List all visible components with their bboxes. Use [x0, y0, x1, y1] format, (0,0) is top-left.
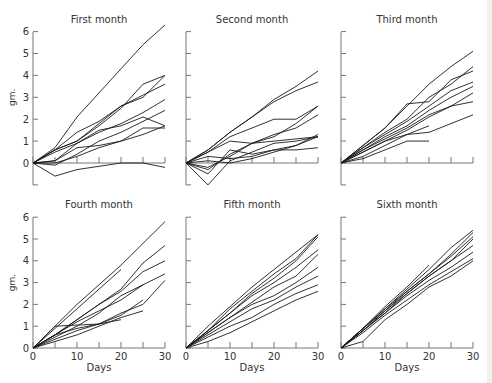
growth-line — [33, 110, 165, 165]
growth-line — [341, 261, 473, 348]
panel-title: Third month — [375, 14, 437, 25]
y-tick-label: 3 — [23, 92, 29, 103]
y-tick-label: 6 — [23, 212, 29, 223]
growth-line — [33, 75, 165, 163]
y-tick-label: 2 — [23, 299, 29, 310]
x-tick-label: 10 — [379, 351, 392, 362]
y-tick-label: 3 — [23, 277, 29, 288]
panel-title: First month — [71, 14, 128, 25]
growth-line — [186, 285, 318, 348]
y-tick-label: 1 — [23, 136, 29, 147]
growth-line — [33, 261, 165, 348]
y-tick-label: 0 — [23, 158, 29, 169]
x-tick-label: 0 — [183, 351, 189, 362]
x-axis-label: Days — [395, 362, 420, 373]
panel-title: Second month — [216, 14, 288, 25]
growth-curves-figure: First month0123456gm.Second monthThird m… — [0, 0, 492, 383]
y-tick-label: 0 — [23, 343, 29, 354]
growth-line — [341, 93, 473, 163]
growth-line — [33, 246, 165, 349]
x-tick-label: 30 — [312, 351, 325, 362]
y-tick-label: 2 — [23, 114, 29, 125]
panel-third-month: Third month — [341, 14, 473, 185]
growth-line — [33, 270, 121, 349]
x-tick-label: 20 — [268, 351, 281, 362]
y-axis-label: gm. — [7, 89, 17, 106]
growth-line — [341, 265, 429, 348]
growth-line — [186, 235, 318, 348]
panel-title: Sixth month — [377, 199, 438, 210]
growth-line — [186, 82, 318, 163]
x-tick-label: 30 — [159, 351, 172, 362]
growth-line — [33, 222, 165, 348]
x-axis-label: Days — [240, 362, 265, 373]
x-tick-label: 20 — [115, 351, 128, 362]
x-tick-label: 0 — [30, 351, 36, 362]
growth-line — [341, 67, 473, 163]
growth-line — [186, 291, 318, 348]
y-tick-label: 5 — [23, 48, 29, 59]
y-tick-label: 1 — [23, 321, 29, 332]
growth-line — [341, 259, 473, 348]
panel-fourth-month: Fourth month0123456gm.0102030Days — [7, 199, 171, 373]
y-axis-label: gm. — [7, 274, 17, 291]
y-tick-label: 5 — [23, 234, 29, 245]
panel-first-month: First month0123456gm. — [7, 14, 165, 185]
panel-sixth-month: Sixth month0102030Days — [338, 199, 480, 373]
growth-line — [341, 51, 473, 163]
y-tick-label: 4 — [23, 70, 29, 81]
growth-line — [341, 102, 473, 163]
y-tick-label: 6 — [23, 26, 29, 37]
panel-fifth-month: Fifth month0102030Days — [183, 199, 325, 373]
growth-line — [33, 75, 165, 163]
growth-line — [341, 237, 473, 348]
growth-line — [341, 115, 473, 163]
x-tick-label: 20 — [423, 351, 436, 362]
x-tick-label: 30 — [467, 351, 480, 362]
panel-title: Fifth month — [223, 199, 280, 210]
x-axis-label: Days — [87, 362, 112, 373]
x-tick-label: 10 — [71, 351, 84, 362]
x-tick-label: 0 — [338, 351, 344, 362]
x-tick-label: 10 — [224, 351, 237, 362]
y-tick-label: 4 — [23, 255, 29, 266]
panel-title: Fourth month — [65, 199, 133, 210]
growth-line — [33, 300, 143, 348]
panel-second-month: Second month — [186, 14, 318, 185]
